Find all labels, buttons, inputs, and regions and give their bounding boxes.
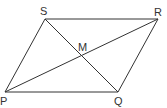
side-sp: [5, 19, 45, 92]
vertex-label-s: S: [40, 5, 47, 17]
side-qr: [118, 19, 158, 92]
intersection-label-m: M: [78, 41, 87, 53]
vertex-label-p: P: [0, 95, 7, 107]
diagonal-sq: [45, 19, 118, 92]
vertex-label-q: Q: [114, 95, 123, 107]
parallelogram-diagram: S R P Q M: [0, 0, 167, 108]
vertex-label-r: R: [154, 6, 162, 18]
